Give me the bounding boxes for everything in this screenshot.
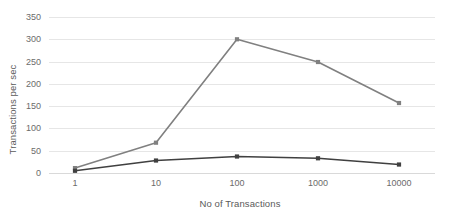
x-axis-tick-label: 1000 [308, 178, 328, 188]
x-axis-tick-label: 10 [151, 178, 161, 188]
x-axis-tick-labels: 110100100010000 [0, 0, 453, 219]
line-chart: Transactions per sec 0501001502002503003… [0, 0, 453, 219]
x-axis-tick-label: 1 [72, 178, 77, 188]
x-axis-tick-label: 100 [229, 178, 244, 188]
x-axis-tick-label: 10000 [386, 178, 411, 188]
x-axis-title: No of Transactions [40, 198, 440, 209]
